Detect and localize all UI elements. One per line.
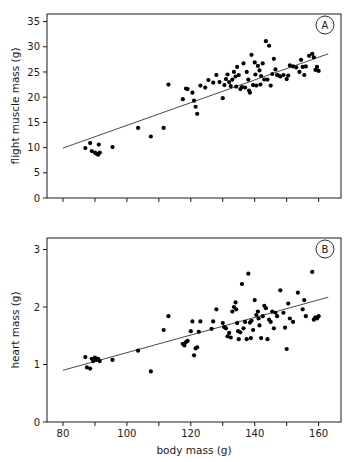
data-point	[248, 91, 252, 95]
data-point	[254, 83, 258, 87]
data-point	[317, 69, 321, 73]
panel-letter: A	[322, 20, 329, 31]
data-point	[256, 316, 260, 320]
data-point	[98, 151, 102, 155]
data-point	[256, 310, 260, 314]
y-tick-label: 0	[34, 193, 40, 204]
panel-b-plot: 012380100120140160heart mass (g)body mas…	[0, 231, 356, 462]
data-point	[304, 64, 308, 68]
y-tick-label: 15	[27, 117, 40, 128]
trend-line	[63, 297, 328, 370]
y-tick-label: 10	[27, 142, 40, 153]
y-tick-label: 20	[27, 92, 40, 103]
data-point	[234, 84, 238, 88]
x-tick-label: 120	[181, 428, 200, 439]
y-tick-label: 25	[27, 67, 40, 78]
panel-b: 012380100120140160heart mass (g)body mas…	[0, 231, 356, 462]
data-point	[206, 78, 210, 82]
data-point	[253, 72, 257, 76]
data-point	[257, 68, 261, 72]
data-point	[83, 146, 87, 150]
data-point	[259, 336, 263, 340]
data-point	[222, 83, 226, 87]
data-point	[275, 314, 279, 318]
data-point	[221, 321, 225, 325]
data-point	[149, 134, 153, 138]
data-point	[230, 310, 234, 314]
data-point	[88, 141, 92, 145]
data-point	[229, 84, 233, 88]
data-point	[195, 345, 199, 349]
data-point	[296, 291, 300, 295]
data-point	[233, 300, 237, 304]
data-point	[186, 339, 190, 343]
data-points	[83, 270, 320, 374]
data-point	[249, 319, 253, 323]
data-point	[251, 328, 255, 332]
data-point	[310, 270, 314, 274]
y-tick-label: 0	[34, 417, 40, 428]
data-point	[97, 142, 101, 146]
y-tick-label: 3	[34, 244, 40, 255]
data-point	[253, 298, 257, 302]
y-tick-label: 2	[34, 302, 40, 313]
data-point	[249, 336, 253, 340]
data-point	[166, 314, 170, 318]
data-point	[110, 358, 114, 362]
data-point	[238, 330, 242, 334]
data-points	[83, 39, 320, 157]
data-point	[257, 323, 261, 327]
data-point	[235, 321, 239, 325]
data-point	[302, 298, 306, 302]
data-point	[304, 314, 308, 318]
data-point	[272, 57, 276, 61]
data-point	[110, 145, 114, 149]
x-tick-label: 80	[57, 428, 70, 439]
data-point	[269, 320, 273, 324]
data-point	[83, 355, 87, 359]
data-point	[317, 314, 321, 318]
data-point	[246, 272, 250, 276]
data-point	[217, 80, 221, 84]
y-tick-label: 1	[34, 359, 40, 370]
y-axis-title: flight muscle mass (g)	[9, 48, 21, 165]
data-point	[249, 53, 253, 57]
data-point	[186, 87, 190, 91]
data-point	[136, 349, 140, 353]
data-point	[136, 126, 140, 130]
data-point	[285, 347, 289, 351]
x-tick-label: 140	[245, 428, 264, 439]
data-point	[190, 91, 194, 95]
data-point	[253, 60, 257, 64]
data-point	[312, 55, 316, 59]
data-point	[286, 301, 290, 305]
panel-a: 05101520253035flight muscle mass (g)A	[0, 0, 356, 231]
x-tick-label: 160	[309, 428, 328, 439]
data-point	[227, 331, 231, 335]
data-point	[192, 99, 196, 103]
data-point	[197, 330, 201, 334]
data-point	[234, 307, 238, 311]
data-point	[189, 329, 193, 333]
data-point	[261, 61, 265, 65]
data-point	[162, 328, 166, 332]
data-point	[149, 369, 153, 373]
data-point	[224, 77, 228, 81]
data-point	[221, 96, 225, 100]
data-point	[270, 72, 274, 76]
data-point	[192, 353, 196, 357]
data-point	[237, 337, 241, 341]
data-point	[198, 319, 202, 323]
plot-frame	[47, 238, 341, 422]
data-point	[241, 326, 245, 330]
data-point	[245, 70, 249, 74]
data-point	[211, 80, 215, 84]
data-point	[259, 74, 263, 78]
data-point	[243, 86, 247, 90]
data-point	[265, 337, 269, 341]
data-point	[278, 288, 282, 292]
panel-a-plot: 05101520253035flight muscle mass (g)A	[0, 0, 356, 231]
data-point	[288, 316, 292, 320]
data-point	[261, 314, 265, 318]
data-point	[230, 77, 234, 81]
